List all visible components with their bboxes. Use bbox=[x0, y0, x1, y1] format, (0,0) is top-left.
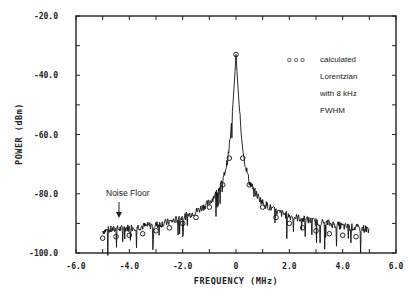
y-tick-label: -60.0 bbox=[34, 131, 58, 140]
fit-marker bbox=[140, 231, 145, 236]
legend: o o o calculated Lorentzian with 8 kHz F… bbox=[287, 55, 357, 115]
fit-marker bbox=[207, 205, 212, 210]
noise-floor-label: Noise Floor bbox=[106, 188, 150, 198]
spectrum-trace bbox=[103, 55, 370, 256]
x-tick-label: -6.0 bbox=[66, 262, 85, 271]
fit-marker bbox=[167, 226, 172, 231]
x-tick-label: -4.0 bbox=[120, 262, 139, 271]
fit-marker bbox=[340, 233, 345, 238]
y-tick-label: -40.0 bbox=[34, 71, 58, 80]
noise-floor-annotation: Noise Floor bbox=[106, 188, 150, 218]
x-tick-label: 4.0 bbox=[335, 262, 350, 271]
y-axis-title: POWER (dBm) bbox=[14, 103, 24, 165]
axis-ticks bbox=[76, 16, 396, 253]
fit-marker bbox=[260, 205, 265, 210]
fit-marker bbox=[100, 236, 105, 241]
y-tick-label: -80.0 bbox=[34, 190, 58, 199]
y-tick-label: -100.0 bbox=[29, 249, 58, 258]
plot-frame bbox=[76, 16, 396, 253]
x-tick-label: 0 bbox=[234, 262, 239, 271]
y-tick-label: -20.0 bbox=[34, 12, 58, 21]
fit-marker bbox=[154, 228, 159, 233]
fit-marker bbox=[287, 221, 292, 226]
x-tick-labels: -6.0-4.0-2.002.04.06.0 bbox=[66, 262, 403, 271]
legend-line-1: calculated bbox=[320, 55, 356, 64]
legend-marker-symbol: o o o bbox=[287, 55, 305, 64]
x-tick-label: 2.0 bbox=[282, 262, 297, 271]
fit-marker bbox=[354, 234, 359, 239]
y-tick-labels: -20.0-40.0-60.0-80.0-100.0 bbox=[29, 12, 58, 258]
x-tick-label: 6.0 bbox=[389, 262, 404, 271]
legend-line-2: Lorentzian bbox=[320, 72, 357, 81]
legend-line-4: FWHM bbox=[320, 106, 345, 115]
x-axis-title: FREQUENCY (MHz) bbox=[194, 276, 278, 286]
spectrum-chart: -6.0-4.0-2.002.04.06.0 -20.0-40.0-60.0-8… bbox=[0, 0, 412, 296]
x-tick-label: -2.0 bbox=[173, 262, 192, 271]
legend-line-3: with 8 kHz bbox=[319, 89, 357, 98]
measured-spectrum-line bbox=[103, 55, 370, 256]
fit-marker bbox=[327, 231, 332, 236]
fit-marker bbox=[194, 215, 199, 220]
arrow-down-icon bbox=[116, 212, 122, 218]
